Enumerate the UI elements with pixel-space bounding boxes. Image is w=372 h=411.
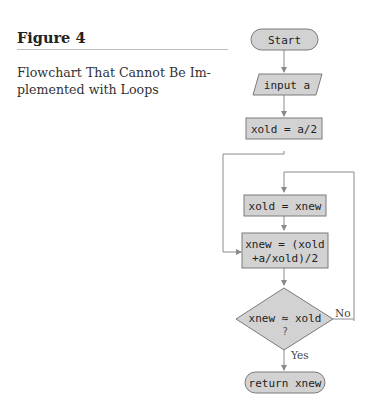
flowchart: Start input a xold = a/2 xold = xnew xne… [0,0,372,411]
svg-text:return xnew: return xnew [249,377,322,390]
svg-text:input a: input a [264,79,310,92]
svg-text:xnew ≈ xold: xnew ≈ xold [249,312,322,325]
init-process: xold = a/2 [246,118,322,139]
svg-text:?: ? [282,326,288,337]
svg-text:xnew = (xold: xnew = (xold [245,238,324,251]
svg-text:xold = xnew: xold = xnew [249,200,322,213]
svg-text:+a/xold)/2: +a/xold)/2 [252,252,318,265]
no-label: No [335,307,351,319]
input-node: input a [253,74,322,95]
compute-process: xnew = (xold +a/xold)/2 [242,233,328,268]
end-terminal: return xnew [245,372,325,393]
start-terminal: Start [251,29,318,50]
yes-label: Yes [290,349,309,361]
svg-text:Start: Start [268,34,301,47]
assign-process: xold = xnew [244,195,326,216]
svg-text:xold = a/2: xold = a/2 [251,123,317,136]
decision-node: xnew ≈ xold ? [236,288,333,350]
